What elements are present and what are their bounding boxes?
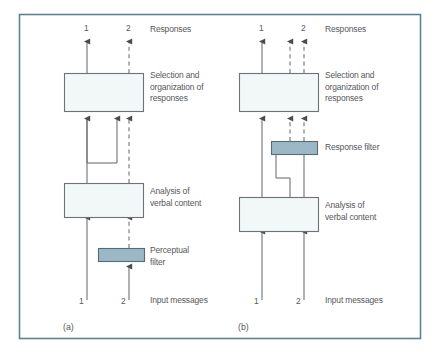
panel-b-top-number-2: 2 [301,23,306,33]
panel-a-analysis-box [65,184,144,218]
panel-b-response-filter-box [272,142,318,155]
panel-a-top-number-1: 1 [84,23,89,33]
panel-a-input-label: Input messages [150,295,208,307]
panel-b-responses-label: Responses [325,24,366,36]
panel-a-selection-label: Selection and organization of responses [150,70,203,105]
panel-b-selection-label: Selection and organization of responses [325,70,378,105]
panel-a-filter-label: Perceptual filter [150,245,189,268]
panel-a-bottom-number-1: 1 [79,296,84,306]
panel-a-responses-label: Responses [150,24,191,36]
panel-b [240,42,319,301]
figure-frame [20,15,421,339]
panel-b-caption: (b) [238,321,249,332]
panel-b-top-number-1: 1 [259,23,264,33]
panel-a-perceptual-filter-box [99,249,145,262]
panel-b-bottom-number-1: 1 [254,296,259,306]
panel-a-top-number-2: 2 [126,23,131,33]
panel-b-bottom-number-2: 2 [296,296,301,306]
panel-a-analysis-label: Analysis of verbal content [150,186,201,209]
panel-b-input-label: Input messages [325,295,383,307]
figure-container: 1 2 Responses Selection and organization… [0,0,437,356]
panel-b-filter-label: Response filter [325,142,379,154]
panel-b-analysis-label: Analysis of verbal content [325,200,376,223]
panel-a-caption: (a) [63,321,74,332]
panel-b-analysis-box [240,198,319,232]
panel-b-selection-box [240,74,319,112]
panel-a-bottom-number-2: 2 [121,296,126,306]
panel-a [65,42,145,301]
panel-a-selection-box [65,74,144,112]
